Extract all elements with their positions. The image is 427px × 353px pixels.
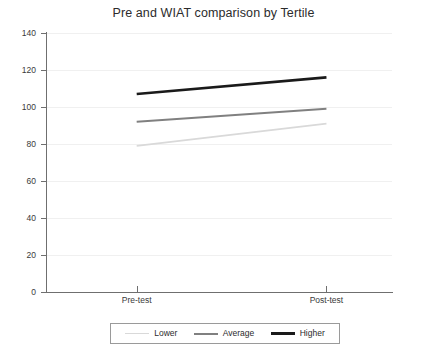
chart-legend: LowerAverageHigher [110,323,340,344]
y-gridline [47,107,392,108]
y-tick-mark [41,181,46,182]
y-gridline [47,255,392,256]
x-tick-mark [326,286,327,292]
y-tick-mark [41,33,46,34]
y-tick-mark [41,70,46,71]
x-tick-mark [137,286,138,292]
x-axis-line [46,292,393,293]
y-tick-label: 140 [0,29,36,38]
x-tick-label: Pre-test [97,296,177,305]
y-tick-label: 60 [0,177,36,186]
y-gridline [47,70,392,71]
y-tick-label: 0 [0,288,36,297]
legend-entry[interactable]: Average [194,329,255,338]
legend-swatch-icon [125,333,149,334]
legend-entry[interactable]: Lower [125,329,177,338]
y-tick-mark [41,107,46,108]
y-tick-label: 80 [0,140,36,149]
y-tick-label: 120 [0,66,36,75]
y-tick-mark [41,255,46,256]
chart-title: Pre and WIAT comparison by Tertile [0,6,427,20]
chart-container: Pre and WIAT comparison by Tertile 02040… [0,0,427,353]
legend-label: Lower [154,329,177,338]
y-gridline [47,218,392,219]
y-tick-mark [41,218,46,219]
x-tick-label: Post-test [286,296,366,305]
y-tick-label: 40 [0,214,36,223]
y-tick-mark [41,292,46,293]
legend-entry[interactable]: Higher [271,329,325,338]
legend-swatch-icon [271,332,295,335]
legend-label: Average [223,329,255,338]
y-tick-label: 20 [0,251,36,260]
y-tick-label: 100 [0,103,36,112]
plot-area [47,33,392,292]
y-tick-mark [41,144,46,145]
y-gridline [47,33,392,34]
legend-swatch-icon [194,333,218,335]
legend-label: Higher [300,329,325,338]
y-gridline [47,181,392,182]
y-gridline [47,144,392,145]
